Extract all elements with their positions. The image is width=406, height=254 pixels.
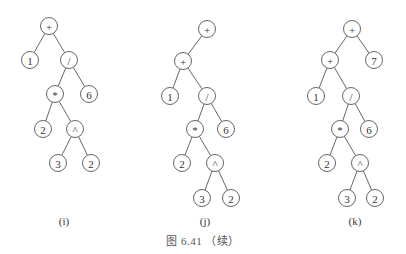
tree-node: + xyxy=(199,21,216,38)
tree-edge xyxy=(334,67,346,88)
node-label: 3 xyxy=(199,193,205,205)
tree-node: 2 xyxy=(319,155,336,172)
node-label: ^ xyxy=(72,124,78,136)
tree-node: 2 xyxy=(223,190,240,207)
node-label: 7 xyxy=(371,55,377,67)
tree-edge xyxy=(58,68,66,86)
tree-edge xyxy=(357,36,369,53)
tree-node: 6 xyxy=(218,121,235,138)
node-label: * xyxy=(192,124,198,136)
node-label: 2 xyxy=(324,158,330,170)
tree-node: 7 xyxy=(366,52,383,69)
tree-node: ^ xyxy=(67,121,84,138)
tree-node: 3 xyxy=(339,190,356,207)
node-label: 6 xyxy=(223,124,229,136)
tree-node: * xyxy=(47,86,64,103)
tree-edge xyxy=(73,67,84,86)
tree-edge xyxy=(173,69,180,88)
node-label: 2 xyxy=(228,193,234,205)
tree-node: / xyxy=(343,88,360,105)
tree-node: ^ xyxy=(207,155,224,172)
tree-edge xyxy=(199,136,210,155)
tree-node: 2 xyxy=(35,121,52,138)
node-label: 6 xyxy=(86,89,92,101)
tree-node: 6 xyxy=(361,121,378,138)
node-label: 3 xyxy=(55,158,61,170)
expression-tree-k: ++71/*62^32 xyxy=(308,21,384,207)
tree-edge xyxy=(343,104,349,121)
tree-node: 2 xyxy=(174,155,191,172)
subfigure-label-j: (j) xyxy=(200,215,210,227)
tree-node: + xyxy=(322,52,339,69)
tree-edge xyxy=(344,136,355,155)
node-label: 1 xyxy=(313,91,319,103)
expression-tree-i: +1/*62^32 xyxy=(22,18,100,172)
tree-edge xyxy=(219,171,228,191)
tree-edge xyxy=(59,101,71,121)
tree-node: * xyxy=(187,121,204,138)
tree-node: 1 xyxy=(22,52,39,69)
tree-edge xyxy=(185,137,192,155)
node-label: + xyxy=(180,56,186,68)
tree-edge xyxy=(188,36,202,54)
tree-node: / xyxy=(61,52,78,69)
node-label: 2 xyxy=(179,158,185,170)
tree-edge xyxy=(198,104,204,121)
tree-node: / xyxy=(199,88,216,105)
tree-edge xyxy=(355,103,365,121)
node-label: + xyxy=(204,24,210,36)
tree-edge xyxy=(188,68,202,89)
node-label: + xyxy=(327,55,333,67)
tree-edge xyxy=(211,103,222,121)
node-label: 2 xyxy=(372,193,378,205)
node-label: 1 xyxy=(167,91,173,103)
tree-node: 2 xyxy=(367,190,384,207)
tree-node: 3 xyxy=(50,155,67,172)
node-label: ^ xyxy=(212,158,218,170)
tree-edge xyxy=(319,68,327,88)
tree-node: + xyxy=(41,18,58,35)
node-label: * xyxy=(52,89,58,101)
tree-edge xyxy=(62,137,71,156)
tree-node: ^ xyxy=(352,155,369,172)
tree-node: + xyxy=(175,53,192,70)
node-label: + xyxy=(46,21,52,33)
node-label: * xyxy=(337,124,343,136)
tree-edge xyxy=(46,102,52,121)
tree-edge xyxy=(330,137,337,155)
tree-edge xyxy=(79,137,88,156)
tree-node: 6 xyxy=(81,86,98,103)
tree-edge xyxy=(34,33,45,52)
expression-tree-j: ++1/*62^32 xyxy=(162,21,240,207)
node-label: 2 xyxy=(88,158,94,170)
tree-node: 1 xyxy=(162,88,179,105)
node-label: 6 xyxy=(366,124,372,136)
tree-node: 1 xyxy=(308,88,325,105)
tree-edge xyxy=(363,171,371,190)
subfigure-label-i: (i) xyxy=(59,215,69,227)
tree-edge xyxy=(53,33,64,52)
figure-caption: 图 6.41 （续） xyxy=(166,232,240,248)
tree-node: + xyxy=(344,21,361,38)
tree-edge xyxy=(205,171,212,190)
node-label: 2 xyxy=(40,124,46,136)
tree-node: 2 xyxy=(83,155,100,172)
tree-node: * xyxy=(332,121,349,138)
node-label: 3 xyxy=(344,193,350,205)
tree-edge xyxy=(335,36,347,53)
node-label: + xyxy=(349,24,355,36)
subfigure-label-k: (k) xyxy=(349,215,362,227)
node-label: 1 xyxy=(27,55,33,67)
tree-node: 3 xyxy=(194,190,211,207)
tree-edge xyxy=(350,171,357,190)
node-label: ^ xyxy=(357,158,363,170)
